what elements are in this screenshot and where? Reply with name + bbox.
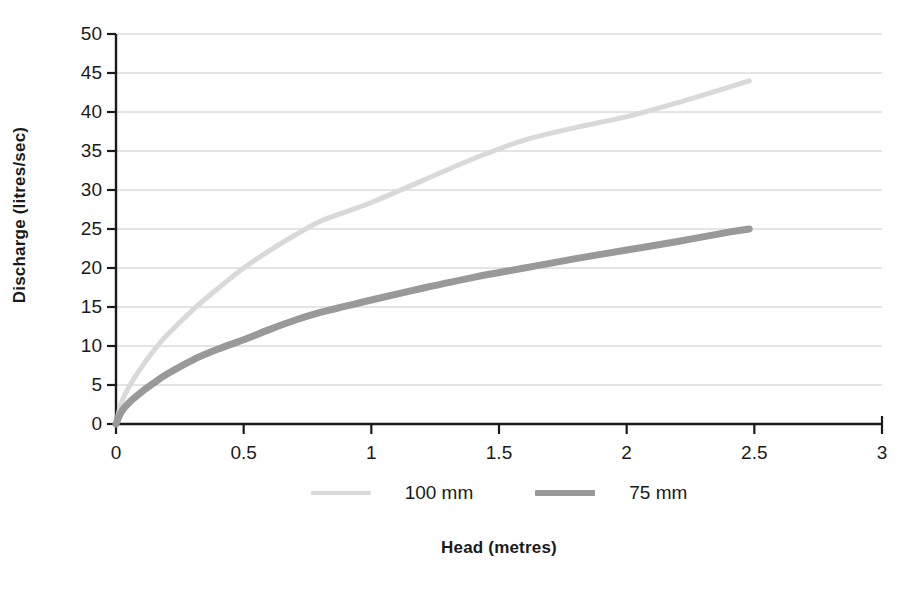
x-tick-label: 1.5 (469, 442, 529, 464)
x-tick-label: 2.5 (724, 442, 784, 464)
x-tick-label: 3 (852, 442, 912, 464)
y-tick-label: 40 (52, 101, 102, 123)
x-tick-label: 1 (341, 442, 401, 464)
x-axis-title-text: Head (metres) (441, 538, 557, 557)
y-tick-label: 10 (52, 335, 102, 357)
legend-entry-1[interactable]: 100 mm (311, 482, 474, 504)
series-line-2 (116, 229, 749, 424)
legend-swatch-icon (311, 491, 371, 495)
legend-label: 100 mm (405, 482, 474, 504)
legend-label: 75 mm (629, 482, 687, 504)
x-tick-label: 2 (597, 442, 657, 464)
y-tick-label: 25 (52, 218, 102, 240)
y-tick-label: 45 (52, 62, 102, 84)
y-tick-label: 15 (52, 296, 102, 318)
y-tick-label: 50 (52, 23, 102, 45)
chart-container: Discharge (litres/sec) 05101520253035404… (0, 0, 914, 591)
y-tick-label: 5 (52, 374, 102, 396)
legend-swatch-icon (535, 490, 595, 496)
series-line-1 (116, 81, 749, 424)
y-tick-label: 35 (52, 140, 102, 162)
x-axis-title: Head (metres) (116, 538, 882, 558)
x-tick-label: 0.5 (214, 442, 274, 464)
data-series-group (116, 81, 749, 424)
tick-marks (107, 34, 882, 434)
chart-legend: 100 mm75 mm (116, 482, 882, 504)
y-tick-label: 20 (52, 257, 102, 279)
y-tick-label: 0 (52, 413, 102, 435)
legend-entry-2[interactable]: 75 mm (535, 482, 687, 504)
y-tick-label: 30 (52, 179, 102, 201)
x-tick-label: 0 (86, 442, 146, 464)
gridlines (116, 34, 882, 385)
